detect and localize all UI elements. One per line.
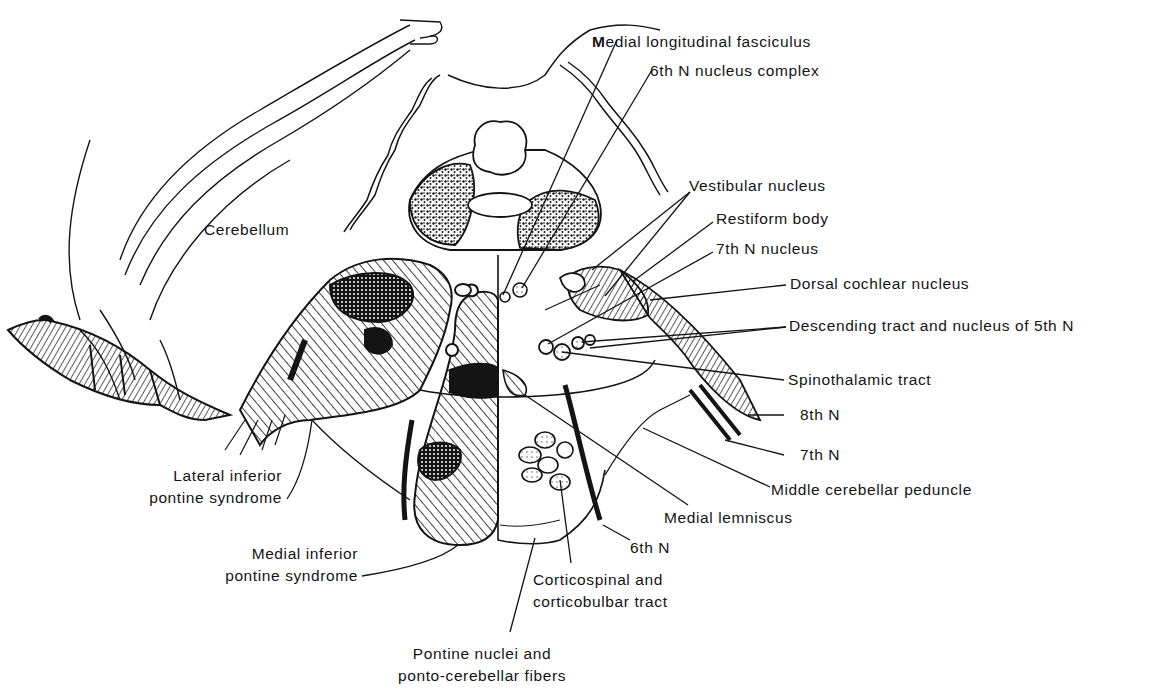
leader-mcp [643, 428, 770, 487]
leader-mcp-hook [605, 395, 690, 475]
leader-spinothalamic [562, 352, 784, 380]
label-dorsal-cochlear-nucleus: Dorsal cochlear nucleus [790, 276, 969, 292]
label-medial-inferior-pontine-syndrome: Medial inferior pontine syndrome [200, 543, 358, 588]
label-lateral-line-2: pontine syndrome [130, 487, 282, 509]
label-medial-line-2: pontine syndrome [200, 565, 358, 587]
label-corticospinal-corticobulbar-tract: Corticospinal and corticobulbar tract [533, 569, 668, 614]
label-8th-n: 8th N [800, 407, 840, 423]
label-medial-line-1: Medial inferior [200, 543, 358, 565]
label-pontine-line-1: Pontine nuclei and [398, 643, 566, 665]
leader-7th-n [725, 440, 784, 455]
label-pontine-nuclei: Pontine nuclei and ponto-cerebellar fibe… [398, 643, 566, 688]
midline-nuclei-drawing [498, 255, 527, 302]
label-lateral-line-1: Lateral inferior [130, 465, 282, 487]
label-vestibular-nucleus: Vestibular nucleus [689, 178, 826, 194]
label-pontine-line-2: ponto-cerebellar fibers [398, 665, 566, 687]
label-medial-lemniscus: Medial lemniscus [664, 510, 792, 526]
leader-lateral-syndrome-b [312, 420, 410, 500]
label-descending-tract-5th-n: Descending tract and nucleus of 5th N [789, 318, 1074, 334]
label-6th-n: 6th N [630, 540, 670, 556]
label-middle-cerebellar-peduncle: Middle cerebellar peduncle [771, 482, 972, 498]
flocculus-drawing [8, 317, 230, 420]
label-corticospinal-line-1: Corticospinal and [533, 569, 668, 591]
label-medial-longitudinal-fasciculus: Medial longitudinal fasciculus [592, 34, 811, 50]
leader-corticospinal [560, 480, 571, 563]
leader-medial-syndrome [362, 545, 458, 576]
label-spinothalamic-tract: Spinothalamic tract [788, 372, 931, 388]
label-7th-n: 7th N [800, 447, 840, 463]
leader-vestibular-b [605, 192, 690, 296]
label-cerebellum: Cerebellum [204, 222, 289, 238]
label-lateral-inferior-pontine-syndrome: Lateral inferior pontine syndrome [130, 465, 282, 510]
leader-lateral-syndrome [287, 420, 312, 499]
leader-6th-n [603, 525, 630, 540]
leader-restiform [632, 222, 713, 282]
leader-medial-lemniscus [525, 395, 688, 505]
label-restiform-body: Restiform body [716, 211, 829, 227]
leader-pontine [510, 538, 535, 632]
label-7th-n-nucleus: 7th N nucleus [716, 241, 819, 257]
leader-vestibular-a [592, 192, 690, 270]
leader-dorsal-cochlear [650, 285, 786, 300]
label-6th-n-nucleus-complex: 6th N nucleus complex [650, 63, 819, 79]
left-tegmentum-drawing [225, 259, 452, 455]
label-corticospinal-line-2: corticobulbar tract [533, 591, 668, 613]
